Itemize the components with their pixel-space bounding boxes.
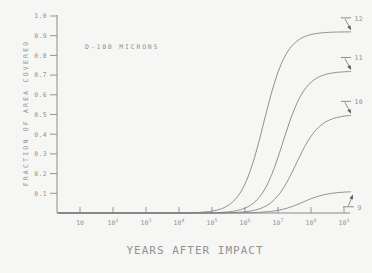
x-tick-label: 102 (108, 218, 119, 227)
x-axis-title: YEARS AFTER IMPACT (126, 244, 263, 257)
y-tick-label: 0.1 (34, 190, 47, 198)
plot-annotation: D-100 MICRONS (85, 43, 159, 51)
y-tick-label: 0.9 (34, 32, 47, 40)
y-tick-label: 1.0 (34, 12, 47, 20)
y-tick-label: 0.6 (34, 91, 47, 99)
x-tick-label: 103 (141, 218, 152, 227)
callout-label-12: 12 (354, 15, 363, 23)
curves (58, 32, 351, 213)
figure: 0.10.20.30.40.50.60.70.80.91.01010210310… (0, 0, 372, 273)
callout-label-11: 11 (354, 54, 363, 62)
callout-arrowhead-10 (347, 109, 351, 114)
y-tick-label: 0.8 (34, 52, 47, 60)
x-tick-label: 105 (207, 218, 218, 227)
x-tick-label: 108 (306, 218, 317, 227)
y-tick-label: 0.7 (34, 71, 47, 79)
curve-9 (58, 192, 351, 213)
x-tick-label: 109 (339, 218, 350, 227)
axes: 0.10.20.30.40.50.60.70.80.91.01010210310… (34, 12, 350, 227)
callout-label-10: 10 (354, 98, 363, 106)
plot-svg: 0.10.20.30.40.50.60.70.80.91.01010210310… (0, 0, 372, 273)
y-axis-title: FRACTION OF AREA COVERED (22, 40, 30, 187)
curve-10 (58, 115, 351, 213)
x-tick-label: 107 (273, 218, 284, 227)
y-tick-label: 0.3 (34, 150, 47, 158)
callout-arrowhead-11 (347, 65, 351, 70)
callout-label-9: 9 (357, 204, 361, 212)
x-tick-label: 106 (240, 218, 251, 227)
curve-callouts: 1211109 (341, 15, 363, 212)
curve-12 (58, 32, 351, 213)
y-tick-label: 0.4 (34, 131, 47, 139)
callout-arrowhead-9 (350, 195, 353, 200)
y-tick-label: 0.5 (34, 111, 47, 119)
callout-arrowhead-12 (347, 25, 351, 30)
x-tick-label: 10 (76, 219, 84, 227)
x-tick-label: 104 (174, 218, 185, 227)
y-tick-label: 0.2 (34, 170, 47, 178)
